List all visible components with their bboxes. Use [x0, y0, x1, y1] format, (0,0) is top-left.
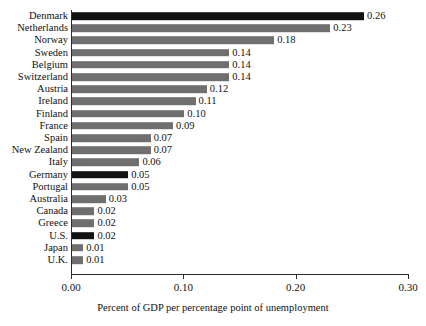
- value-label: 0.09: [176, 121, 194, 132]
- x-axis-tick-label: 0.30: [398, 281, 417, 293]
- bar: [72, 159, 139, 167]
- category-label: Finland: [36, 108, 68, 119]
- category-label: Australia: [30, 194, 69, 205]
- bar: [72, 171, 128, 179]
- x-axis-tick: [71, 274, 72, 279]
- bar-row: Austria0.12: [0, 83, 426, 95]
- value-label: 0.01: [86, 255, 104, 266]
- x-axis-tick-label: 0.10: [174, 281, 193, 293]
- category-label: Sweden: [35, 47, 68, 58]
- bar-row: Greece0.02: [0, 217, 426, 229]
- value-label: 0.11: [199, 96, 217, 107]
- x-axis-tick: [296, 274, 297, 279]
- bar-row: Japan0.01: [0, 242, 426, 254]
- x-axis-tick: [408, 274, 409, 279]
- x-axis-tick-label: 0.00: [61, 281, 80, 293]
- value-label: 0.14: [232, 72, 250, 83]
- category-label: U.K.: [48, 255, 68, 266]
- bar: [72, 24, 330, 32]
- bar-row: Netherlands0.23: [0, 22, 426, 34]
- bar-row: Canada0.02: [0, 205, 426, 217]
- bar-row: Switzerland0.14: [0, 71, 426, 83]
- category-label: New Zealand: [12, 145, 68, 156]
- value-label: 0.01: [86, 243, 104, 254]
- bar: [72, 134, 151, 142]
- bar-row: U.K.0.01: [0, 254, 426, 266]
- bar-row: Belgium0.14: [0, 59, 426, 71]
- x-axis-line: [71, 274, 409, 275]
- bar: [72, 12, 364, 20]
- bar-row: Sweden0.14: [0, 47, 426, 59]
- value-label: 0.03: [109, 194, 127, 205]
- value-label: 0.05: [131, 169, 149, 180]
- value-label: 0.26: [367, 11, 385, 22]
- bar-row: Finland0.10: [0, 108, 426, 120]
- bar: [72, 183, 128, 191]
- bar: [72, 256, 83, 264]
- bar-row: Australia0.03: [0, 193, 426, 205]
- value-label: 0.02: [97, 206, 115, 217]
- bar: [72, 220, 94, 228]
- bar-row: Norway0.18: [0, 34, 426, 46]
- bar-row: Italy0.06: [0, 156, 426, 168]
- category-label: Norway: [34, 35, 68, 46]
- value-label: 0.06: [142, 157, 160, 168]
- value-label: 0.14: [232, 47, 250, 58]
- bar: [72, 195, 106, 203]
- value-label: 0.10: [187, 108, 205, 119]
- bar: [72, 49, 229, 57]
- value-label: 0.14: [232, 60, 250, 71]
- bar-row: Germany0.05: [0, 169, 426, 181]
- category-label: Greece: [38, 218, 68, 229]
- value-label: 0.02: [97, 230, 115, 241]
- bar-chart: Denmark0.26Netherlands0.23Norway0.18Swed…: [0, 0, 426, 326]
- x-axis-tick-label: 0.20: [286, 281, 305, 293]
- bar-row: France0.09: [0, 120, 426, 132]
- category-label: U.S.: [49, 230, 68, 241]
- category-label: Germany: [29, 169, 68, 180]
- value-label: 0.02: [97, 218, 115, 229]
- bar: [72, 37, 274, 45]
- bar: [72, 73, 229, 81]
- bar-row: Spain0.07: [0, 132, 426, 144]
- bar-row: Portugal0.05: [0, 181, 426, 193]
- bar: [72, 207, 94, 215]
- bar: [72, 146, 151, 154]
- value-label: 0.07: [154, 133, 172, 144]
- category-label: Austria: [37, 84, 68, 95]
- value-label: 0.07: [154, 145, 172, 156]
- value-label: 0.12: [210, 84, 228, 95]
- bar: [72, 122, 173, 130]
- bar: [72, 61, 229, 69]
- category-label: Japan: [44, 243, 68, 254]
- category-label: Canada: [37, 206, 69, 217]
- category-label: Portugal: [32, 182, 68, 193]
- category-label: Belgium: [32, 60, 68, 71]
- category-label: Italy: [49, 157, 68, 168]
- category-label: Denmark: [29, 11, 68, 22]
- value-label: 0.05: [131, 182, 149, 193]
- bar: [72, 85, 207, 93]
- bar: [72, 110, 184, 118]
- category-label: Ireland: [38, 96, 68, 107]
- value-label: 0.18: [277, 35, 295, 46]
- bar: [72, 244, 83, 252]
- bar-row: New Zealand0.07: [0, 144, 426, 156]
- category-label: Netherlands: [17, 23, 68, 34]
- bar-row: Ireland0.11: [0, 95, 426, 107]
- bar: [72, 232, 94, 240]
- x-axis-title: Percent of GDP per percentage point of u…: [0, 302, 426, 313]
- x-axis-tick: [183, 274, 184, 279]
- value-label: 0.23: [333, 23, 351, 34]
- category-label: Spain: [44, 133, 68, 144]
- bar-row: U.S.0.02: [0, 230, 426, 242]
- bar-row: Denmark0.26: [0, 10, 426, 22]
- category-label: France: [39, 121, 68, 132]
- category-label: Switzerland: [18, 72, 68, 83]
- bar: [72, 98, 196, 106]
